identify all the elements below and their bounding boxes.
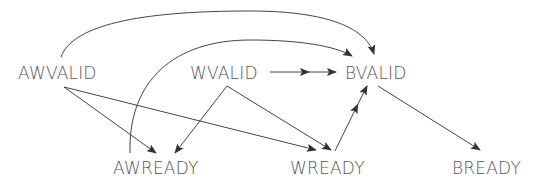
node-wvalid: WVALID	[190, 63, 258, 83]
edge-wvalid-to-awready	[175, 86, 227, 153]
node-bready: BREADY	[452, 158, 521, 178]
node-awvalid: AWVALID	[18, 63, 97, 83]
node-bvalid: BVALID	[345, 63, 407, 83]
edge-awvalid-to-wready	[64, 87, 316, 150]
edge-awready-to-bvalid	[130, 40, 352, 153]
edge-bvalid-to-bready	[378, 86, 480, 150]
handshake-dependency-diagram: AWVALID WVALID BVALID AWREADY WREADY BRE…	[0, 0, 544, 186]
node-wready: WREADY	[290, 158, 365, 178]
edge-awvalid-to-awready	[64, 87, 156, 153]
edge-wready-to-bvalid	[335, 86, 367, 151]
edge-awvalid-to-bvalid	[61, 11, 374, 57]
node-awready: AWREADY	[113, 158, 199, 178]
